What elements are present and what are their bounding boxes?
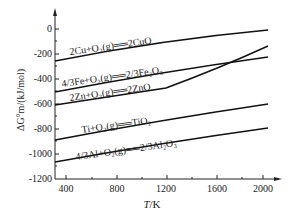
y-tick-label: -400 <box>34 73 52 84</box>
x-tick-label: 1200 <box>156 183 176 194</box>
x-ticks <box>66 175 263 179</box>
y-axis-title: ΔG°m/(kJ/mol) <box>15 69 27 131</box>
x-tick-label: 1600 <box>207 183 227 194</box>
y-tick-label: -200 <box>34 48 52 59</box>
x-tick-label: 800 <box>110 183 125 194</box>
y-ticks <box>55 29 59 166</box>
label-al2o3: 4/3Al+O₂(g)══2/3Al₂O₃ <box>75 137 178 163</box>
x-tick-labels: 400 800 1200 1600 2000 <box>59 183 274 194</box>
x-tick-label: 400 <box>59 183 74 194</box>
y-tick-label: -1200 <box>29 173 52 184</box>
y-tick-label: 0 <box>47 23 52 34</box>
y-tick-label: -1000 <box>29 148 52 159</box>
line-labels: 2Cu+O₂(g)══2CuO 4/3Fe+O₂(g)══2/3Fe₂O₃ 2Z… <box>61 35 178 163</box>
y-tick-label: -800 <box>34 123 52 134</box>
y-axis-arrow-icon <box>53 8 57 16</box>
gibbs-energy-chart: 0 -200 -400 -600 -800 -1000 -1200 400 80… <box>0 0 299 220</box>
x-axis-title: T/K <box>143 198 160 210</box>
label-tio2: Ti+O₂(g)══TiO₂ <box>81 114 152 136</box>
label-cuo: 2Cu+O₂(g)══2CuO <box>69 35 153 58</box>
line-tio2 <box>55 104 268 140</box>
x-tick-label: 2000 <box>253 183 273 194</box>
y-tick-labels: 0 -200 -400 -600 -800 -1000 -1200 <box>29 23 52 184</box>
y-tick-label: -600 <box>34 98 52 109</box>
x-axis-arrow-icon <box>274 177 282 181</box>
